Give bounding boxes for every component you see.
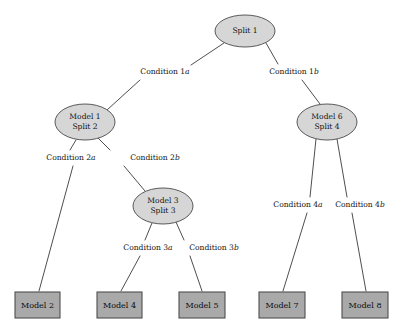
edge-model1-to-model3-upper <box>98 138 110 150</box>
edge-label-condition-2b: Condition 2b <box>130 153 180 162</box>
edge-model3-to-model5-upper <box>176 222 184 240</box>
edge-split1-to-model6-lower <box>302 80 320 104</box>
split-label-model6-split4-line2: Split 4 <box>314 122 339 131</box>
split-node-model3-split3[interactable]: Model 3 Split 3 <box>133 188 193 224</box>
leaf-label-model4: Model 4 <box>103 301 136 310</box>
leaf-node-model5[interactable]: Model 5 <box>179 292 225 318</box>
edge-group <box>39 43 366 291</box>
decision-tree-canvas: Condition 1a Condition 1b Condition 2a C… <box>0 0 398 330</box>
leaf-node-model7[interactable]: Model 7 <box>259 292 305 318</box>
edge-label-condition-1a: Condition 1a <box>140 67 190 76</box>
edge-label-condition-4a: Condition 4a <box>273 200 323 209</box>
leaf-node-group: Model 2 Model 4 Model 5 Model 7 Model 8 <box>15 292 388 318</box>
edge-model3-to-model4-lower <box>121 256 140 291</box>
split-node-group: Split 1 Model 1 Split 2 Model 3 Split 3 … <box>55 15 357 224</box>
edge-split1-to-model6-upper <box>266 43 278 64</box>
split-label-model3-split3-line2: Split 3 <box>150 206 175 215</box>
leaf-label-model5: Model 5 <box>185 301 218 310</box>
edge-label-condition-1b: Condition 1b <box>269 67 319 76</box>
leaf-label-model7: Model 7 <box>265 301 298 310</box>
leaf-node-model4[interactable]: Model 4 <box>97 292 142 318</box>
leaf-label-model2: Model 2 <box>21 301 54 310</box>
edge-label-condition-3b: Condition 3b <box>189 243 239 252</box>
split-node-model1-split2[interactable]: Model 1 Split 2 <box>55 104 115 140</box>
split-label-model6-split4-line1: Model 6 <box>311 112 343 121</box>
leaf-node-model2[interactable]: Model 2 <box>15 292 60 318</box>
split-label-split1-line1: Split 1 <box>232 26 257 35</box>
edge-label-condition-4b: Condition 4b <box>335 200 385 209</box>
edge-model3-to-model4-upper <box>145 223 152 240</box>
edge-model1-to-model3-lower <box>124 166 145 191</box>
edge-model1-to-model2-lower <box>39 166 73 291</box>
edge-model6-to-model8-upper <box>337 139 347 197</box>
leaf-label-model8: Model 8 <box>348 301 381 310</box>
edge-split1-to-model1-upper <box>191 43 224 65</box>
split-label-model1-split2-line1: Model 1 <box>69 112 100 121</box>
edge-label-condition-2a: Condition 2a <box>46 153 96 162</box>
edge-split1-to-model1-lower <box>107 80 140 110</box>
split-node-model6-split4[interactable]: Model 6 Split 4 <box>297 104 357 140</box>
edge-model6-to-model8-lower <box>352 213 366 291</box>
edge-model6-to-model7-lower <box>283 213 307 291</box>
edge-label-condition-3a: Condition 3a <box>123 243 173 252</box>
leaf-node-model8[interactable]: Model 8 <box>342 292 388 318</box>
decision-tree-figure: Condition 1a Condition 1b Condition 2a C… <box>0 0 398 330</box>
edge-label-group: Condition 1a Condition 1b Condition 2a C… <box>46 67 385 252</box>
edge-model3-to-model5-lower <box>190 256 202 291</box>
edge-model6-to-model7-upper <box>310 139 316 197</box>
edge-model1-to-model2-upper <box>70 140 76 150</box>
split-node-split1[interactable]: Split 1 <box>215 15 275 47</box>
split-label-model1-split2-line2: Split 2 <box>72 122 97 131</box>
split-label-model3-split3-line1: Model 3 <box>147 196 179 205</box>
